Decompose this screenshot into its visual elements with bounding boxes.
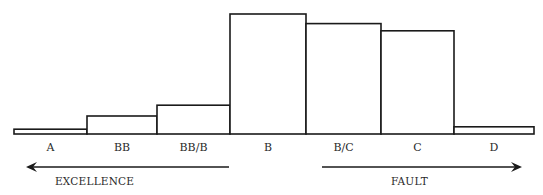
category-label: BB/B <box>180 141 208 154</box>
category-label: A <box>46 141 56 154</box>
bar-d <box>454 127 534 134</box>
category-label: C <box>413 141 421 154</box>
bar-bb-b <box>157 105 230 134</box>
bar-b <box>230 14 306 134</box>
excellence-label: EXCELLENCE <box>55 175 134 187</box>
grade-distribution-chart: ABBBB/BBB/CCD EXCELLENCE FAULT <box>0 0 543 195</box>
category-label: B/C <box>333 141 353 154</box>
category-labels: ABBBB/BBB/CCD <box>46 141 499 154</box>
fault-annotation: FAULT <box>322 162 522 187</box>
bar-bb <box>87 116 157 134</box>
bars <box>14 14 534 134</box>
category-label: B <box>264 141 272 154</box>
fault-label: FAULT <box>391 175 428 187</box>
bar-b-c <box>306 24 381 134</box>
category-label: D <box>490 141 499 154</box>
excellence-annotation: EXCELLENCE <box>26 162 229 187</box>
bar-c <box>381 31 454 134</box>
bar-a <box>14 129 87 134</box>
category-label: BB <box>114 141 130 154</box>
